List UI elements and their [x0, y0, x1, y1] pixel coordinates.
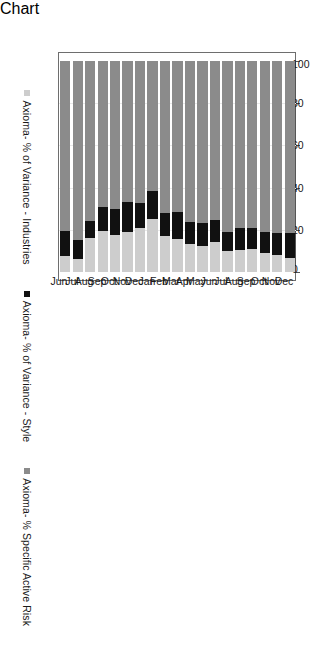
- bar-segment: [222, 61, 232, 232]
- bar-segment: [197, 223, 207, 245]
- bar-stack[interactable]: [98, 61, 108, 272]
- bar-segment: [197, 246, 207, 272]
- bar-segment: [172, 212, 182, 239]
- bar-segment: [235, 250, 245, 272]
- bar-segment: [98, 231, 108, 272]
- bar-segment: [172, 239, 182, 272]
- bar-stack[interactable]: [272, 61, 282, 272]
- bar-segment: [272, 61, 282, 233]
- bar-segment: [110, 209, 120, 235]
- bar-stack[interactable]: [197, 61, 207, 272]
- bar-stack[interactable]: [135, 61, 145, 272]
- bar-segment: [60, 61, 70, 231]
- bar-segment: [272, 255, 282, 272]
- bar-stack[interactable]: [60, 61, 70, 272]
- bar-segment: [197, 61, 207, 223]
- category-label: Jun: [51, 275, 68, 287]
- bar-segment: [235, 228, 245, 250]
- bar-segment: [247, 228, 257, 249]
- bar-stack[interactable]: [172, 61, 182, 272]
- legend-swatch-ind: [24, 90, 30, 96]
- bar-segment: [210, 220, 220, 242]
- bar-segment: [247, 249, 257, 272]
- bars-container: [59, 61, 296, 272]
- bar-segment: [285, 258, 295, 272]
- bar-segment: [73, 61, 83, 240]
- chart-stage: 100806040200 Axioma- % Specific Active R…: [0, 18, 313, 652]
- bar-segment: [160, 236, 170, 272]
- bar-segment: [135, 203, 145, 227]
- bar-segment: [185, 61, 195, 222]
- bar-segment: [60, 231, 70, 256]
- bar-segment: [285, 233, 295, 258]
- bar-segment: [122, 232, 132, 272]
- bar-segment: [85, 61, 95, 221]
- chart-page: 100806040200 Axioma- % Specific Active R…: [0, 18, 313, 652]
- bar-segment: [272, 233, 282, 255]
- bar-stack[interactable]: [110, 61, 120, 272]
- bar-stack[interactable]: [73, 61, 83, 272]
- bar-segment: [73, 259, 83, 272]
- bar-stack[interactable]: [235, 61, 245, 272]
- bar-stack[interactable]: [160, 61, 170, 272]
- bar-stack[interactable]: [210, 61, 220, 272]
- bar-segment: [85, 221, 95, 238]
- bar-segment: [98, 61, 108, 207]
- legend-item[interactable]: Axioma- % of Variance - Industries: [21, 90, 33, 264]
- bar-stack[interactable]: [222, 61, 232, 272]
- bar-segment: [110, 235, 120, 272]
- bar-segment: [185, 244, 195, 272]
- bar-segment: [247, 61, 257, 228]
- bar-segment: [110, 61, 120, 209]
- bar-segment: [122, 202, 132, 232]
- bar-segment: [147, 191, 157, 219]
- chart-legend: Axioma- % Specific Active RiskAxioma- % …: [17, 18, 37, 652]
- bar-segment: [85, 238, 95, 272]
- legend-label: Axioma- % of Variance - Industries: [21, 100, 33, 264]
- bar-segment: [210, 242, 220, 272]
- bar-segment: [122, 61, 132, 202]
- bar-segment: [222, 251, 232, 272]
- bar-stack[interactable]: [147, 61, 157, 272]
- legend-item[interactable]: Axioma- % of Variance - Style: [21, 291, 33, 443]
- bar-segment: [147, 61, 157, 191]
- bar-stack[interactable]: [122, 61, 132, 272]
- bar-segment: [185, 222, 195, 243]
- bar-segment: [160, 213, 170, 236]
- bar-segment: [160, 61, 170, 213]
- bar-segment: [210, 61, 220, 220]
- legend-swatch-style: [24, 291, 30, 297]
- bar-stack[interactable]: [247, 61, 257, 272]
- bar-segment: [260, 61, 270, 232]
- bar-segment: [172, 61, 182, 212]
- bar-segment: [222, 232, 232, 251]
- bar-stack[interactable]: [260, 61, 270, 272]
- legend-label: Axioma- % Specific Active Risk: [21, 478, 33, 626]
- bar-segment: [98, 207, 108, 231]
- bar-stack[interactable]: [85, 61, 95, 272]
- bar-stack[interactable]: [285, 61, 295, 272]
- legend-item[interactable]: Axioma- % Specific Active Risk: [21, 468, 33, 626]
- bar-segment: [285, 61, 295, 233]
- legend-label: Axioma- % of Variance - Style: [21, 301, 33, 443]
- bar-segment: [260, 253, 270, 272]
- bar-stack[interactable]: [185, 61, 195, 272]
- bar-segment: [147, 219, 157, 272]
- bar-segment: [135, 228, 145, 272]
- bar-segment: [73, 240, 83, 259]
- bar-segment: [235, 61, 245, 228]
- bar-segment: [135, 61, 145, 203]
- legend-swatch-risk: [24, 468, 30, 474]
- bar-segment: [260, 232, 270, 253]
- bar-segment: [60, 256, 70, 272]
